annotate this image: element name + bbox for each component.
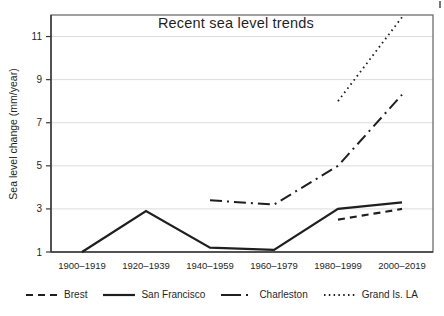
legend-solid-line-sample	[103, 292, 135, 298]
x-category-label: 1920–1939	[122, 260, 170, 271]
legend-item-charleston: Charleston	[221, 289, 307, 300]
series-line-san-francisco	[82, 202, 402, 252]
y-tick-label: 9	[36, 74, 42, 85]
y-tick-label: 11	[32, 31, 43, 42]
x-category-label: 1960–1979	[250, 260, 298, 271]
series-line-brest	[338, 209, 402, 220]
x-category-label: 2000–2019	[378, 260, 426, 271]
series-line-charleston	[210, 95, 402, 205]
y-tick-label: 5	[36, 160, 42, 171]
legend-dashdot-line-sample	[221, 292, 253, 298]
legend-label-grand-is-la: Grand Is. LA	[362, 289, 418, 300]
legend-dotted-line-sample	[324, 292, 356, 298]
legend-dashed-line-sample	[26, 292, 58, 298]
legend-item-grand-is-la: Grand Is. LA	[324, 289, 418, 300]
plot-area: 13579111900–19191920–19391940–19591960–1…	[0, 0, 444, 284]
legend-item-san-francisco: San Francisco	[103, 289, 205, 300]
y-tick-label: 7	[36, 117, 42, 128]
y-tick-label: 3	[36, 203, 42, 214]
legend-label-brest: Brest	[64, 289, 87, 300]
scan-artifact-mark	[439, 1, 441, 8]
legend-item-brest: Brest	[26, 289, 87, 300]
x-category-label: 1940–1959	[186, 260, 234, 271]
legend-label-charleston: Charleston	[259, 289, 307, 300]
x-category-label: 1900–1919	[58, 260, 106, 271]
legend-label-san-francisco: San Francisco	[141, 289, 205, 300]
y-tick-label: 1	[36, 247, 42, 258]
sea-level-chart-figure: Recent sea level trends Sea level change…	[0, 0, 444, 316]
x-category-label: 1980–1999	[314, 260, 362, 271]
series-line-grand-is-la	[338, 17, 402, 101]
legend: BrestSan FranciscoCharlestonGrand Is. LA	[0, 289, 444, 300]
